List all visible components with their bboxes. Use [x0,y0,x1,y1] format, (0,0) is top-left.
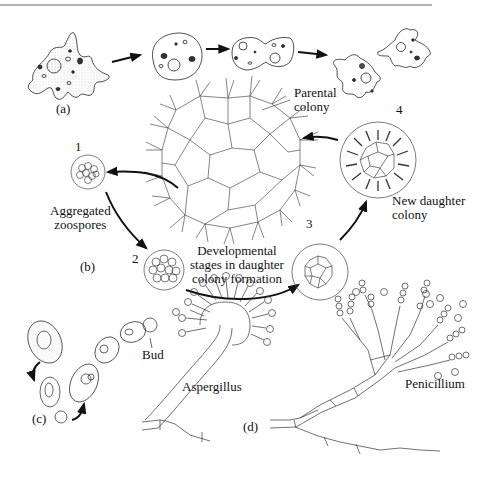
parental-colony-label-line2: colony [294,100,337,114]
center-caption-line3: colony formation [190,272,284,286]
arrow-c2 [72,404,84,420]
parental-colony-label-line1: Parental [294,86,337,100]
arrow-3-to-4 [340,202,366,240]
stage-4-caption-line1: New daughter [392,194,465,208]
amoeba-parent [28,33,109,100]
arrow-a3 [298,52,326,55]
amoeba-daughters [333,29,430,98]
panel-c-label: (c) [32,412,46,426]
stage-1-circle [71,155,105,189]
arrow-4-to-colony [304,137,338,140]
stage-3-circle [292,244,348,300]
penicillium-label: Penicillium [405,377,465,391]
stage-4-number: 4 [396,103,403,117]
arrow-c1 [33,362,40,380]
stage-1-number: 1 [75,140,82,154]
center-caption-line2: stages in daughter [190,258,284,272]
stage-4-caption: New daughter colony [392,194,465,222]
panel-a-label: (a) [56,102,70,116]
yeast-cells [21,315,157,423]
stage-1-caption: Aggregated zoospores [50,204,111,232]
stage-4-caption-line2: colony [392,208,465,222]
stage-4-spines [346,130,409,191]
arrow-1-to-2 [106,192,146,248]
penicillium [270,280,469,454]
panel-d-label: (d) [243,420,258,434]
center-caption-line1: Developmental [190,244,284,258]
amoeba-rounded [152,33,202,80]
stage-1-caption-line1: Aggregated [50,204,111,218]
stage-2-number: 2 [132,252,139,266]
arrow-2-to-3 [186,285,298,299]
stage-3-number: 3 [306,217,313,231]
parental-colony-horns [144,76,318,244]
arrow-colony-to-1 [108,171,178,188]
aspergillus-label: Aspergillus [182,380,242,394]
arrow-a1 [112,55,140,62]
center-caption: Developmental stages in daughter colony … [190,244,284,286]
bud-label: Bud [142,348,164,362]
parental-colony-label: Parental colony [294,86,337,114]
parental-colony [162,96,300,228]
stage-1-caption-line2: zoospores [50,218,111,232]
stage-2-circle [144,250,184,290]
figure: (a) Parental colony 1 Aggregated zoospor… [0,0,478,485]
panel-b-label: (b) [80,260,95,274]
amoeba-dividing [232,37,294,70]
